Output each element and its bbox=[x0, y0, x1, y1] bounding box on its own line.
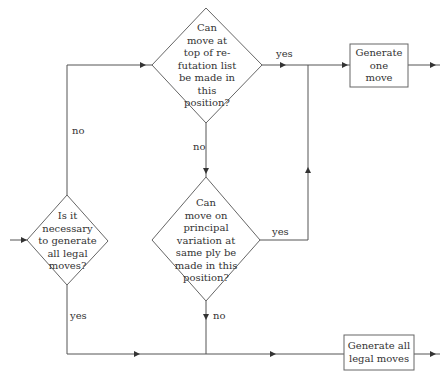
arrow-head bbox=[203, 168, 209, 174]
flowchart: Is it necessary to generate all legal mo… bbox=[0, 0, 447, 375]
edge-label-principal-no: no bbox=[213, 310, 225, 321]
decision-text-all-legal: Is it necessary to generate all legal mo… bbox=[27, 210, 108, 273]
decision-text-principal: Can move on principal variation at same … bbox=[152, 197, 260, 285]
edge-label-all-legal-no: no bbox=[72, 125, 84, 136]
arrow-head bbox=[342, 62, 348, 68]
arrow-head bbox=[430, 351, 436, 357]
process-text-one-move: Generate one move bbox=[350, 47, 408, 85]
arrow-head bbox=[430, 62, 436, 68]
arrow-head bbox=[305, 167, 311, 173]
edge-label-refutation-yes: yes bbox=[276, 48, 293, 59]
arrow-head bbox=[270, 351, 276, 357]
edge-label-all-legal-yes: yes bbox=[70, 310, 87, 321]
decision-text-refutation: Can move at top of re- futation list be … bbox=[152, 22, 262, 110]
arrow-head bbox=[203, 314, 209, 320]
connector-principal-yes bbox=[260, 65, 308, 240]
arrow-head bbox=[280, 62, 286, 68]
arrow-head bbox=[140, 62, 146, 68]
process-text-all-moves: Generate all legal moves bbox=[344, 340, 414, 365]
edge-label-principal-yes: yes bbox=[272, 226, 289, 237]
arrow-head bbox=[134, 351, 140, 357]
edge-label-refutation-no: no bbox=[193, 141, 205, 152]
